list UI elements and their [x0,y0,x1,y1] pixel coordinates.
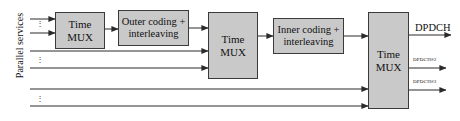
input-ellipsis-group-c: ⋮ [36,97,44,100]
input-ellipsis-group-b: ⋮ [36,58,44,61]
block-time-mux-3-line1: Time [374,48,404,60]
block-outer-coding-line2: interleaving [120,28,188,40]
parallel-services-label: Parallel services [14,3,25,89]
output-label-dpdch1: DPDCH [415,22,451,33]
block-inner-coding-line1: Inner coding + [276,24,342,36]
block-time-mux-3: Time MUX [368,12,409,109]
block-time-mux-1-line1: Time [65,18,95,30]
block-time-mux-1-line2: MUX [65,31,95,43]
block-time-mux-2-line1: Time [218,33,248,45]
block-diagram-figure: Parallel services ⋮ ⋮ ⋮ Time MUX Outer c… [0,0,460,121]
block-time-mux-1: Time MUX [55,12,105,49]
block-outer-coding-line1: Outer coding + [120,16,188,28]
block-inner-coding-line2: interleaving [276,36,342,48]
output-label-dpdch2: DPDCH#2 [413,57,436,62]
output-label-dpdch3: DPDCH#3 [413,79,436,84]
block-outer-coding-interleaving: Outer coding + interleaving [118,10,189,46]
block-time-mux-2-line2: MUX [218,46,248,58]
block-inner-coding-interleaving: Inner coding + interleaving [273,18,344,54]
block-time-mux-3-line2: MUX [374,61,404,73]
input-ellipsis-group-a: ⋮ [36,22,44,25]
block-time-mux-2: Time MUX [208,12,258,79]
